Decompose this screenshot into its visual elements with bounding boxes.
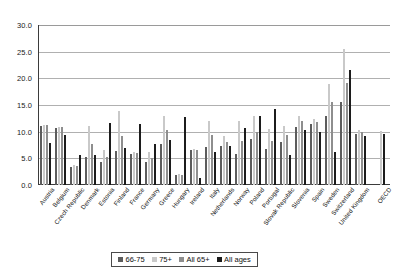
bar-group (68, 25, 83, 185)
bar (349, 70, 352, 185)
bar (304, 130, 307, 185)
bar (184, 117, 187, 185)
bar (244, 128, 247, 185)
legend-item: 66-75 (118, 255, 145, 264)
bar-group (263, 25, 278, 185)
legend-label: All 65+ (186, 255, 209, 264)
bar-group (173, 25, 188, 185)
bar (94, 155, 97, 185)
y-axis-tick-label: 15.0 (17, 101, 32, 110)
bar (364, 136, 367, 185)
bar-group (128, 25, 143, 185)
legend-swatch (179, 257, 184, 262)
legend-item: All ages (217, 255, 251, 264)
bar-group (98, 25, 113, 185)
bar (334, 152, 337, 185)
bar (64, 135, 67, 185)
bar (289, 155, 292, 185)
legend-item: All 65+ (179, 255, 210, 264)
x-axis-tick-label: OECD (375, 186, 392, 205)
x-axis-tick-label: Italy (207, 186, 220, 200)
legend-swatch (152, 257, 157, 262)
bar-group (248, 25, 263, 185)
y-axis-tick-label: 5.0 (21, 154, 32, 163)
legend-swatch (118, 257, 123, 262)
bar (49, 143, 52, 185)
bar-group (53, 25, 68, 185)
bar-group (38, 25, 53, 185)
legend-item: 75+ (152, 255, 172, 264)
bar-group (293, 25, 308, 185)
bar-group (233, 25, 248, 185)
bar-group (143, 25, 158, 185)
legend-label: 66-75 (126, 255, 145, 264)
bar (383, 134, 386, 185)
bar-group (323, 25, 338, 185)
bar-group (353, 25, 368, 185)
legend-label: All ages (224, 255, 251, 264)
bar-group (203, 25, 218, 185)
bar-group (218, 25, 233, 185)
bar (259, 116, 262, 185)
legend-swatch (217, 257, 222, 262)
legend-label: 75+ (159, 255, 172, 264)
y-axis-tick-label: 20.0 (17, 74, 32, 83)
bar-group (188, 25, 203, 185)
chart-legend: 66-7575+All 65+All ages (111, 252, 258, 267)
y-axis-tick-label: 0.0 (21, 181, 32, 190)
x-axis: AustriaBelgiumCzech RepublicDenmarkEston… (38, 186, 390, 244)
bar-group (278, 25, 293, 185)
bar (79, 155, 82, 185)
bar (319, 132, 322, 185)
bar (199, 178, 202, 185)
bar-group (375, 25, 390, 185)
bar-group (83, 25, 98, 185)
bar (154, 144, 157, 185)
bar-chart: 0.05.010.015.020.025.030.0 AustriaBelgiu… (0, 0, 400, 279)
bar (214, 152, 217, 185)
bar (139, 124, 142, 185)
y-axis-tick-label: 25.0 (17, 47, 32, 56)
bar-group (308, 25, 323, 185)
y-axis-tick-label: 10.0 (17, 127, 32, 136)
y-axis: 0.05.010.015.020.025.030.0 (0, 25, 36, 185)
bar-group (158, 25, 173, 185)
bar (124, 148, 127, 185)
bar (229, 146, 232, 185)
y-axis-tick-label: 30.0 (17, 21, 32, 30)
bars-layer (38, 25, 390, 185)
bar (109, 123, 112, 185)
bar-group (338, 25, 353, 185)
bar-group (113, 25, 128, 185)
bar (274, 109, 277, 185)
bar (169, 140, 172, 185)
